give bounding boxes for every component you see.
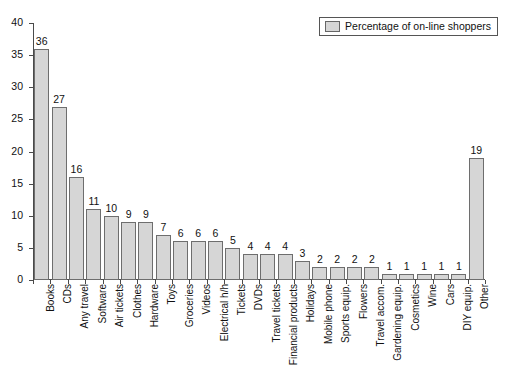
x-axis-label: Financial products	[289, 284, 299, 365]
bar-item: 9	[137, 23, 154, 280]
bar-item: 1	[381, 23, 398, 280]
bar	[312, 267, 327, 280]
x-axis-label: Clothes	[133, 284, 143, 318]
y-axis-tick-label: 30	[11, 80, 23, 92]
bar	[208, 241, 223, 280]
bar	[399, 274, 414, 280]
bar-value-label: 5	[230, 234, 236, 246]
bar-value-label: 1	[421, 260, 427, 272]
bar-value-label: 36	[36, 35, 48, 47]
y-axis-tick-label: 10	[11, 209, 23, 221]
bar-value-label: 2	[334, 253, 340, 265]
bar-value-label: 10	[105, 202, 117, 214]
bar	[295, 261, 310, 280]
bar	[225, 248, 240, 280]
bar-item: 7	[155, 23, 172, 280]
bar-item: 16	[68, 23, 85, 280]
bar-value-label: 1	[439, 260, 445, 272]
bar-item: 2	[346, 23, 363, 280]
bar	[121, 222, 136, 280]
bar-value-label: 6	[178, 227, 184, 239]
y-axis-tick-label: 15	[11, 177, 23, 189]
bar-item: 2	[311, 23, 328, 280]
bar-value-label: 4	[282, 240, 288, 252]
x-axis-label: Air tickets	[115, 284, 125, 327]
bar	[104, 216, 119, 280]
x-axis-label: Groceries	[185, 284, 195, 327]
bar	[86, 209, 101, 280]
bar-value-label: 1	[386, 260, 392, 272]
bar-item: 10	[103, 23, 120, 280]
x-axis-label: Tickets	[237, 284, 247, 315]
bar-item: 1	[398, 23, 415, 280]
bar	[260, 254, 275, 280]
y-axis-tick-label: 0	[17, 273, 23, 285]
bar-item: 6	[172, 23, 189, 280]
x-axis-label: DVDs	[254, 284, 264, 310]
bar-value-label: 7	[160, 221, 166, 233]
x-axis-label: Cosmetics	[411, 284, 421, 331]
x-axis-label: Electrical h/h	[220, 284, 230, 341]
bar-item: 1	[415, 23, 432, 280]
bar-item: 11	[85, 23, 102, 280]
x-axis-label: Books	[46, 284, 56, 312]
plot-area: 0510152025303540 36271611109976665444322…	[33, 23, 499, 280]
bar-value-label: 9	[143, 208, 149, 220]
bar	[278, 254, 293, 280]
bar-item: 5	[224, 23, 241, 280]
bar-item: 3	[294, 23, 311, 280]
bar-item: 2	[329, 23, 346, 280]
bar-value-label: 1	[456, 260, 462, 272]
bar-item: 9	[120, 23, 137, 280]
bar	[451, 274, 466, 280]
bar-item: 6	[207, 23, 224, 280]
x-axis-label: Toys	[167, 284, 177, 305]
bar	[330, 267, 345, 280]
bar	[138, 222, 153, 280]
bar-value-label: 3	[300, 247, 306, 259]
bar-item: 4	[242, 23, 259, 280]
bar-chart: Percentage of on-line shoppers 051015202…	[0, 0, 507, 376]
bar	[191, 241, 206, 280]
bar-item: 4	[259, 23, 276, 280]
x-axis-label: Gardening equip.	[393, 284, 403, 361]
bar-value-label: 19	[470, 144, 482, 156]
bar	[434, 274, 449, 280]
bar-item: 36	[33, 23, 50, 280]
bar	[417, 274, 432, 280]
x-axis-label: Travel tickets	[272, 284, 282, 343]
bar	[469, 158, 484, 280]
bar-item: 27	[50, 23, 67, 280]
bar	[69, 177, 84, 280]
bar-item: 1	[450, 23, 467, 280]
x-axis-label: Travel accom.	[376, 284, 386, 346]
bar	[243, 254, 258, 280]
x-axis-label: Any travel	[80, 284, 90, 328]
bar-value-label: 2	[352, 253, 358, 265]
x-axis-label: DIY equip.	[463, 284, 473, 331]
bar-value-label: 1	[404, 260, 410, 272]
bar-value-label: 6	[195, 227, 201, 239]
bar-item: 6	[189, 23, 206, 280]
bar	[156, 235, 171, 280]
x-axis-label: Other	[480, 284, 490, 309]
bar-item: 1	[433, 23, 450, 280]
bar	[382, 274, 397, 280]
y-axis-tick-label: 25	[11, 112, 23, 124]
y-axis-tick-label: 35	[11, 48, 23, 60]
x-axis-label: Sports equip.	[341, 284, 351, 343]
x-axis-labels: BooksCDsAny travelSoftwareAir ticketsClo…	[33, 284, 485, 374]
x-axis-label: Cars	[446, 284, 456, 305]
x-axis-label: Software	[98, 284, 108, 323]
bar	[364, 267, 379, 280]
bar-value-label: 6	[213, 227, 219, 239]
bar-value-label: 2	[317, 253, 323, 265]
x-axis-label: Wine	[428, 284, 438, 307]
bar-value-label: 9	[126, 208, 132, 220]
x-axis-label: Holidays	[306, 284, 316, 322]
bar-item: 2	[363, 23, 380, 280]
y-axis-tick-label: 20	[11, 145, 23, 157]
bar	[52, 107, 67, 280]
bar-series: 36271611109976665444322221111119	[33, 23, 485, 280]
bar	[347, 267, 362, 280]
